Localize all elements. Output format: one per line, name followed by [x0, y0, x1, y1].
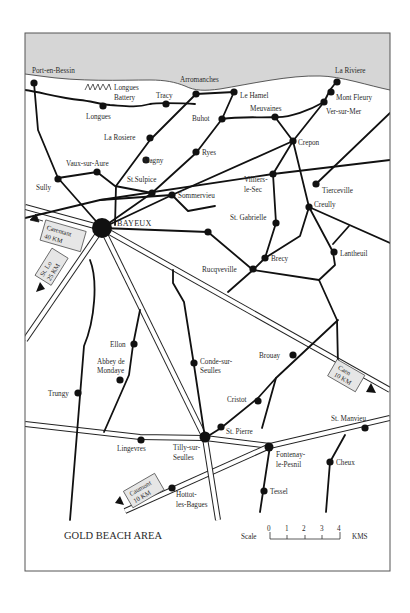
svg-text:Villiers-: Villiers-	[244, 176, 268, 184]
svg-text:4: 4	[337, 525, 341, 533]
svg-text:Ellon: Ellon	[110, 341, 126, 349]
svg-text:Tracy: Tracy	[156, 92, 173, 100]
svg-text:Lantheuil: Lantheuil	[340, 250, 368, 258]
svg-text:La Riviere: La Riviere	[335, 67, 366, 75]
svg-text:Lingevres: Lingevres	[117, 445, 146, 453]
arrow-southwest-icon	[36, 282, 45, 292]
svg-text:le-Pesnil: le-Pesnil	[276, 461, 301, 469]
svg-text:Tessel: Tessel	[270, 488, 288, 496]
svg-text:le-Sec: le-Sec	[244, 186, 262, 194]
svg-text:Magny: Magny	[143, 157, 164, 165]
svg-text:Port-en-Bessin: Port-en-Bessin	[32, 67, 75, 75]
svg-text:Sully: Sully	[36, 184, 52, 192]
svg-text:Conde-sur-: Conde-sur-	[200, 358, 233, 366]
svg-text:les-Bagues: les-Bagues	[176, 501, 208, 509]
svg-text:Ver-sur-Mer: Ver-sur-Mer	[326, 108, 362, 116]
sign-caen: Caen 10 KM	[328, 359, 365, 391]
svg-text:Sommervieu: Sommervieu	[178, 192, 215, 200]
svg-text:2: 2	[302, 525, 306, 533]
svg-text:St. Pierre: St. Pierre	[226, 428, 253, 436]
svg-text:Cheux: Cheux	[336, 459, 355, 467]
svg-text:Longues: Longues	[114, 84, 139, 92]
battery-icon	[85, 84, 111, 90]
svg-text:Buhot: Buhot	[192, 115, 210, 123]
svg-text:Trungy: Trungy	[48, 390, 69, 398]
svg-text:Crepon: Crepon	[298, 139, 320, 147]
svg-text:Meuvaines: Meuvaines	[250, 105, 282, 113]
svg-text:BAYEUX: BAYEUX	[117, 219, 152, 228]
svg-text:Seulles: Seulles	[200, 367, 221, 375]
svg-text:0: 0	[267, 525, 271, 533]
svg-text:KMS: KMS	[352, 533, 368, 541]
svg-text:Battery: Battery	[114, 94, 136, 102]
svg-text:Tierceville: Tierceville	[322, 187, 353, 195]
svg-text:Hottot-: Hottot-	[176, 491, 197, 499]
svg-text:St. Gabrielle: St. Gabrielle	[230, 214, 266, 222]
arrow-west-icon	[30, 214, 43, 222]
svg-text:Mont Fleury: Mont Fleury	[336, 94, 373, 102]
svg-text:Rucqveville: Rucqveville	[202, 266, 237, 274]
svg-text:Fontenay-: Fontenay-	[276, 451, 306, 459]
svg-text:Scale: Scale	[241, 533, 257, 541]
place-labels: Port-en-Bessin Arromanches La Riviere Lo…	[32, 67, 373, 509]
svg-text:Mondaye: Mondaye	[97, 367, 124, 375]
svg-text:Cristot: Cristot	[227, 396, 247, 404]
svg-text:Creully: Creully	[314, 201, 336, 209]
svg-text:1: 1	[285, 525, 289, 533]
svg-text:Longues: Longues	[86, 113, 111, 121]
svg-text:Arromanches: Arromanches	[180, 76, 219, 84]
svg-text:St.Sulpice: St.Sulpice	[127, 176, 156, 184]
map-title: GOLD BEACH AREA	[64, 530, 162, 541]
svg-text:Vaux-sur-Aure: Vaux-sur-Aure	[66, 160, 109, 168]
svg-text:Tilly-sur-: Tilly-sur-	[173, 444, 201, 452]
svg-text:Le Hamel: Le Hamel	[240, 92, 269, 100]
svg-text:Brouay: Brouay	[259, 352, 281, 360]
svg-text:La Rosiere: La Rosiere	[104, 134, 135, 142]
svg-text:Ryes: Ryes	[202, 149, 216, 157]
svg-text:3: 3	[320, 525, 324, 533]
svg-text:Brecy: Brecy	[271, 255, 289, 263]
gold-beach-map: Carentant 40 KM St. Lo 25 KM Caen 10 KM …	[0, 0, 410, 613]
svg-text:St. Manvieu: St. Manvieu	[331, 415, 367, 423]
arrow-southwest-icon	[115, 496, 124, 505]
svg-text:Abbey de: Abbey de	[97, 358, 125, 366]
scale-bar: Scale 0 1 2 3 4 KMS	[241, 525, 368, 541]
svg-text:Seulles: Seulles	[173, 454, 194, 462]
